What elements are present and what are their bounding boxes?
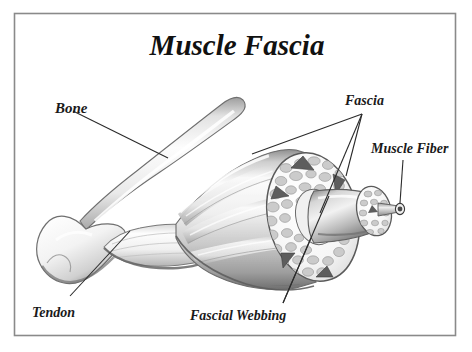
label-muscle-fiber: Muscle Fiber [370, 141, 449, 156]
label-fascia: Fascia [344, 93, 384, 108]
muscle-fascia-figure: Muscle Fascia Bone Fascia Muscle Fiber T… [0, 0, 472, 352]
label-tendon: Tendon [32, 305, 75, 320]
label-fascial-webbing: Fascial Webbing [189, 308, 286, 323]
figure-title: Muscle Fascia [149, 29, 325, 61]
muscle-fascia-illustration: Muscle Fascia Bone Fascia Muscle Fiber T… [0, 0, 472, 352]
label-bone: Bone [54, 100, 88, 116]
